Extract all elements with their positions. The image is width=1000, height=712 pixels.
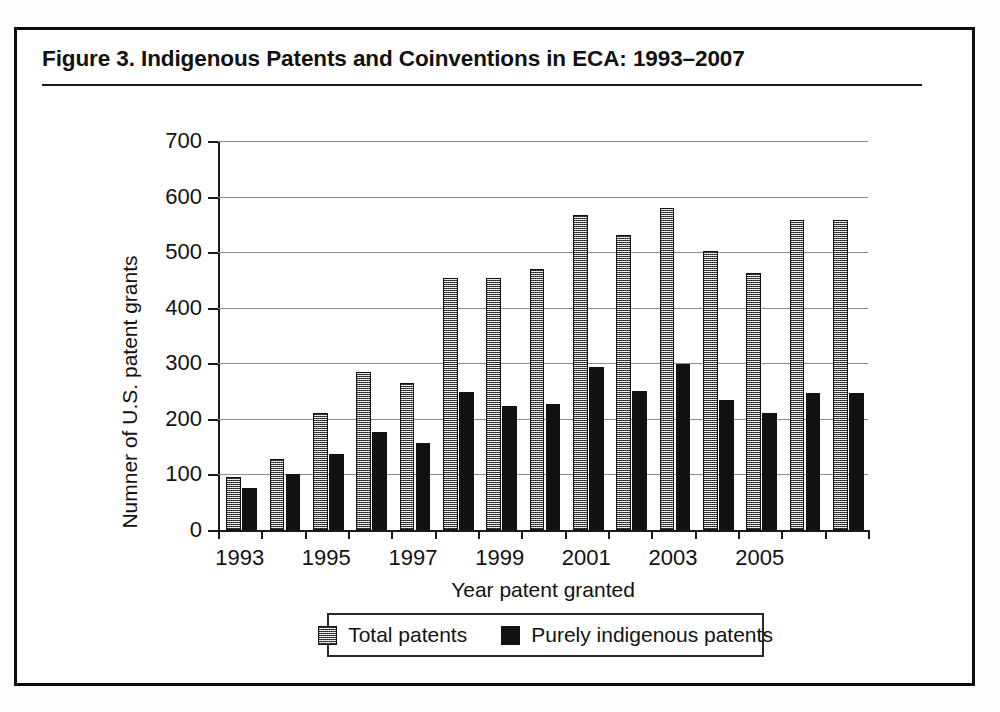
bar-group-1998 (443, 141, 474, 530)
x-axis-tick-label-2005: 2005 (715, 545, 805, 571)
y-axis-tick (208, 252, 218, 254)
bar-total-patents-1996 (356, 372, 371, 530)
bar-indigenous-patents-2002 (632, 391, 647, 530)
bar-indigenous-patents-2003 (676, 364, 691, 530)
legend-label: Purely indigenous patents (531, 623, 773, 647)
bar-group-2005 (746, 141, 777, 530)
bar-group-1997 (400, 141, 431, 530)
bar-indigenous-patents-1994 (286, 474, 301, 530)
legend-entry-total-patents: Total patents (318, 623, 467, 647)
x-axis-tick (781, 530, 783, 539)
bar-total-patents-2002 (616, 235, 631, 530)
y-axis-tick (208, 530, 218, 532)
x-axis-tick-label-1999: 1999 (455, 545, 545, 571)
gray-hatched-swatch (318, 626, 337, 645)
y-axis-tick (208, 141, 218, 143)
bar-group-1999 (486, 141, 517, 530)
bar-indigenous-patents-1995 (329, 454, 344, 530)
x-axis-tick (348, 530, 350, 539)
plot-area (218, 141, 868, 530)
y-axis-tick (208, 474, 218, 476)
bar-indigenous-patents-2004 (719, 400, 734, 530)
x-axis-tick (391, 530, 393, 539)
chart-legend: Total patentsPurely indigenous patents (327, 613, 764, 657)
x-axis-title: Year patent granted (218, 578, 868, 602)
bar-group-2006 (790, 141, 821, 530)
x-axis-tick (651, 530, 653, 539)
y-axis-title-wrap: Numner of U.S. patent grants (60, 180, 260, 400)
x-axis-line (218, 530, 870, 532)
x-axis-tick (695, 530, 697, 539)
x-axis-tick (218, 530, 220, 539)
x-axis-tick-label-2001: 2001 (541, 545, 631, 571)
x-axis-tick (565, 530, 567, 539)
bar-total-patents-2000 (530, 269, 545, 530)
y-axis-tick (208, 363, 218, 365)
bar-total-patents-1998 (443, 278, 458, 530)
x-axis-tick (261, 530, 263, 539)
bar-total-patents-1993 (226, 477, 241, 530)
bar-group-2001 (573, 141, 604, 530)
bar-indigenous-patents-1998 (459, 392, 474, 530)
bar-total-patents-1999 (486, 278, 501, 530)
figure-page: Figure 3. Indigenous Patents and Coinven… (0, 0, 1000, 712)
bar-indigenous-patents-2007 (849, 393, 864, 530)
bar-group-2003 (660, 141, 691, 530)
y-axis-tick (208, 419, 218, 421)
bar-indigenous-patents-2005 (762, 413, 777, 530)
bar-total-patents-2004 (703, 251, 718, 530)
y-axis-tick (208, 197, 218, 199)
x-axis-tick-label-1993: 1993 (195, 545, 285, 571)
x-axis-tick (868, 530, 870, 539)
bar-total-patents-2001 (573, 215, 588, 530)
x-axis-tick (521, 530, 523, 539)
bar-group-2002 (616, 141, 647, 530)
y-axis-tick-label: 700 (132, 128, 202, 154)
bar-group-2004 (703, 141, 734, 530)
y-axis-tick (208, 308, 218, 310)
bar-indigenous-patents-2006 (806, 393, 821, 530)
bar-group-1994 (270, 141, 301, 530)
bar-indigenous-patents-2000 (546, 404, 561, 530)
bar-group-1996 (356, 141, 387, 530)
bar-indigenous-patents-1997 (416, 443, 431, 530)
x-axis-tick-label-1997: 1997 (368, 545, 458, 571)
bar-group-1995 (313, 141, 344, 530)
y-axis-tick-label: 100 (132, 461, 202, 487)
x-axis-tick-label-1995: 1995 (281, 545, 371, 571)
bar-group-2007 (833, 141, 864, 530)
bar-total-patents-2005 (746, 273, 761, 530)
y-axis-title: Numner of U.S. patent grants (118, 227, 142, 557)
bar-total-patents-2006 (790, 220, 805, 530)
x-axis-tick (305, 530, 307, 539)
x-axis-tick (738, 530, 740, 539)
y-axis-tick-label: 200 (132, 406, 202, 432)
bar-indigenous-patents-1996 (372, 432, 387, 530)
bar-indigenous-patents-2001 (589, 367, 604, 530)
bar-total-patents-1995 (313, 413, 328, 530)
bar-group-2000 (530, 141, 561, 530)
bar-total-patents-1994 (270, 459, 285, 530)
x-axis-tick (435, 530, 437, 539)
bar-indigenous-patents-1993 (242, 488, 257, 530)
x-axis-tick (825, 530, 827, 539)
x-axis-tick-label-2003: 2003 (628, 545, 718, 571)
x-axis-tick (478, 530, 480, 539)
y-axis-tick-label: 0 (132, 517, 202, 543)
bar-total-patents-2007 (833, 220, 848, 530)
bar-indigenous-patents-1999 (502, 406, 517, 530)
x-axis-tick (608, 530, 610, 539)
bar-total-patents-1997 (400, 383, 415, 530)
bar-total-patents-2003 (660, 208, 675, 530)
legend-entry-purely-indigenous-patents: Purely indigenous patents (501, 623, 773, 647)
black-swatch (501, 626, 520, 645)
legend-label: Total patents (348, 623, 467, 647)
